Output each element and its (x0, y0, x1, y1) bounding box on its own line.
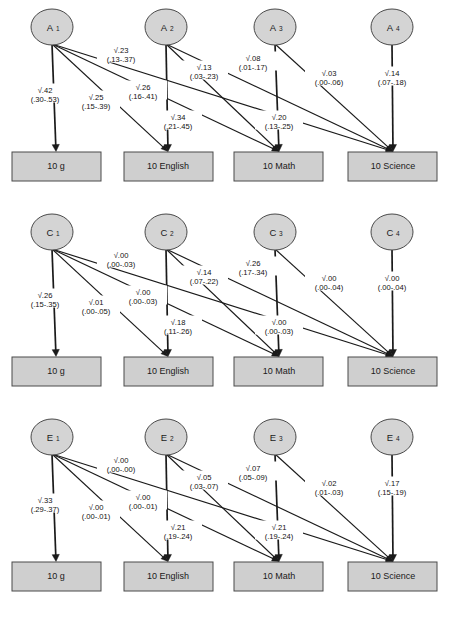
outcome-box-label-3: 10 Science (371, 571, 416, 581)
path-estimate-value: √.23 (114, 46, 129, 55)
path-estimate-label: √.14(.07-.18) (368, 67, 416, 88)
path-estimate-value: √.14 (197, 268, 212, 277)
path-estimate-label: √.23(.13-.37) (97, 44, 145, 65)
path-estimate-value: √.25 (89, 93, 104, 102)
path-estimate-label: √.21(.19-.24) (154, 521, 202, 542)
path-estimate-value: √.08 (246, 54, 261, 63)
panel-c-canvas: 10 g10 English10 Math10 ScienceC1C2C3C4√… (0, 205, 449, 410)
latent-node-subscript-E4: 4 (396, 435, 400, 442)
arrowhead (52, 554, 59, 561)
path-estimate-ci: (.00-.04) (378, 283, 407, 292)
latent-node-label-C3: C (270, 227, 277, 238)
path-arrow-C4-to-4 (392, 249, 393, 351)
path-estimate-ci: (.01-.03) (315, 488, 344, 497)
path-estimate-ci: (.00-.01) (129, 502, 158, 511)
latent-node-label-C2: C (161, 227, 168, 238)
path-estimate-ci: (.01-.17) (239, 63, 268, 72)
path-estimate-ci: (.30-.53) (31, 95, 60, 104)
latent-node-label-E4: E (387, 432, 393, 443)
path-estimate-ci: (.00-.05) (82, 307, 111, 316)
path-estimate-value: √.17 (385, 479, 400, 488)
path-diagram-figure: 10 g10 English10 Math10 ScienceA1A2A3A4√… (0, 0, 449, 619)
outcome-box-label-0: 10 g (47, 571, 65, 581)
outcome-box-label-2: 10 Math (263, 161, 296, 171)
path-estimate-ci: (.19-.24) (164, 532, 193, 541)
path-estimate-label: √.00(.00-.04) (368, 272, 416, 293)
path-estimate-value: √.02 (322, 479, 337, 488)
path-estimate-label: √.00(.00-.04) (305, 272, 353, 293)
latent-node-subscript-E3: 3 (279, 435, 283, 442)
path-estimate-ci: (.00-.01) (82, 512, 111, 521)
latent-node-subscript-A1: 1 (56, 25, 60, 32)
outcome-box-label-3: 10 Science (371, 366, 416, 376)
path-estimate-value: √.00 (272, 318, 287, 327)
path-estimate-value: √.00 (136, 493, 151, 502)
latent-node-label-A4: A (387, 22, 394, 33)
path-estimate-label: √.34(.21-.45) (154, 111, 202, 132)
path-estimate-ci: (.21-.45) (164, 122, 193, 131)
arrowhead (52, 349, 59, 356)
path-estimate-label: √.07(.05-.09) (229, 462, 277, 483)
path-estimate-label: √.02(.01-.03) (305, 477, 353, 498)
path-arrow-E4-to-4 (392, 454, 393, 556)
panel-a-canvas: 10 g10 English10 Math10 ScienceA1A2A3A4√… (0, 0, 449, 205)
outcome-box-label-2: 10 Math (263, 366, 296, 376)
path-estimate-value: √.42 (38, 86, 53, 95)
path-estimate-ci: (.00-.06) (315, 78, 344, 87)
path-estimate-ci: (.15-.35) (31, 300, 60, 309)
path-estimate-label: √.25(.15-.39) (72, 91, 120, 112)
latent-node-label-E1: E (47, 432, 53, 443)
path-estimate-label: √.00(.00-.03) (255, 316, 303, 337)
outcome-box-label-0: 10 g (47, 161, 65, 171)
path-estimate-label: √.26(.17-.34) (229, 257, 277, 278)
panel-e-canvas: 10 g10 English10 Math10 ScienceE1E2E3E4√… (0, 410, 449, 615)
latent-node-subscript-C3: 3 (279, 230, 283, 237)
path-estimate-value: √.20 (272, 113, 287, 122)
latent-node-subscript-A3: 3 (279, 25, 283, 32)
outcome-box-label-3: 10 Science (371, 161, 416, 171)
path-estimate-value: √.01 (89, 298, 104, 307)
path-estimate-label: √.08(.01-.17) (229, 52, 277, 73)
latent-node-label-A2: A (161, 22, 168, 33)
path-estimate-value: √.18 (171, 318, 186, 327)
path-estimate-value: √.00 (136, 288, 151, 297)
path-estimate-ci: (.17-.34) (239, 268, 268, 277)
panel-a: 10 g10 English10 Math10 ScienceA1A2A3A4√… (0, 0, 449, 205)
outcome-box-label-1: 10 English (147, 161, 189, 171)
latent-node-subscript-E2: 2 (170, 435, 174, 442)
path-estimate-label: √.05(.03-.07) (180, 471, 228, 492)
panel-c: 10 g10 English10 Math10 ScienceC1C2C3C4√… (0, 205, 449, 410)
path-estimate-label: √.00(.00-.01) (72, 501, 120, 522)
path-estimate-label: √.42(.30-.53) (21, 84, 69, 105)
path-estimate-label: √.20(.13-.25) (255, 111, 303, 132)
path-estimate-label: √.26(.16-.41) (119, 81, 167, 102)
latent-node-subscript-C2: 2 (170, 230, 174, 237)
path-estimate-ci: (.00-.04) (315, 283, 344, 292)
path-estimate-label: √.26(.15-.35) (21, 289, 69, 310)
latent-node-subscript-A2: 2 (170, 25, 174, 32)
path-estimate-label: √.03(.00-.06) (305, 67, 353, 88)
path-estimate-value: √.13 (197, 63, 212, 72)
path-estimate-value: √.26 (246, 259, 261, 268)
path-estimate-ci: (.13-.25) (265, 122, 294, 131)
latent-node-subscript-A4: 4 (396, 25, 400, 32)
latent-node-label-C1: C (47, 227, 54, 238)
path-estimate-value: √.00 (322, 274, 337, 283)
latent-node-label-E2: E (161, 432, 167, 443)
panel-e: 10 g10 English10 Math10 ScienceE1E2E3E4√… (0, 410, 449, 615)
arrowhead (52, 144, 59, 151)
path-estimate-ci: (.29-.37) (31, 505, 60, 514)
path-estimate-value: √.21 (272, 523, 287, 532)
path-estimate-label: √.17(.15-.19) (368, 477, 416, 498)
path-estimate-label: √.01(.00-.05) (72, 296, 120, 317)
path-estimate-label: √.00(.00-.03) (119, 286, 167, 307)
latent-node-subscript-C1: 1 (56, 230, 60, 237)
outcome-box-label-1: 10 English (147, 366, 189, 376)
path-estimate-value: √.21 (171, 523, 186, 532)
latent-node-label-A1: A (47, 22, 54, 33)
path-estimate-ci: (.07-.22) (190, 277, 219, 286)
path-estimate-ci: (.16-.41) (129, 92, 158, 101)
path-estimate-value: √.34 (171, 113, 186, 122)
path-estimate-ci: (.13-.37) (107, 55, 136, 64)
path-arrow-A4-to-4 (392, 44, 393, 146)
